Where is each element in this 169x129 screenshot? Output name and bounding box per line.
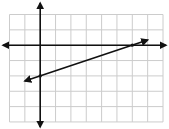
y-intercept-point: [39, 74, 42, 77]
x-intercept-point: [131, 44, 134, 47]
coordinate-graph: [0, 0, 169, 129]
axes: [3, 3, 166, 127]
grid-lines: [10, 15, 164, 122]
